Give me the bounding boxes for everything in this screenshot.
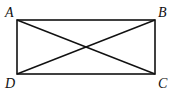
vertex-label-b: B [158,5,167,20]
vertex-label-a: A [4,5,14,20]
vertex-label-c: C [158,76,168,91]
rectangle-diagram: A B C D [0,0,177,92]
vertex-label-d: D [4,76,15,91]
